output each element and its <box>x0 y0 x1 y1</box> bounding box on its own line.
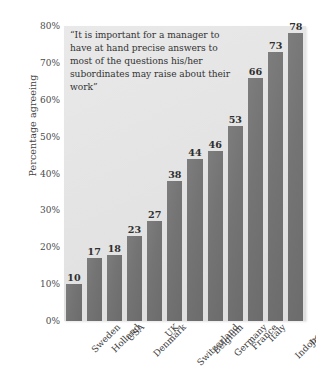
y-axis-tick-30: 30% <box>22 205 60 215</box>
bar <box>228 126 243 321</box>
bar <box>288 33 303 321</box>
bar-value-label: 46 <box>202 139 228 150</box>
y-axis-tick-20: 20% <box>22 242 60 252</box>
bar-value-label: 78 <box>283 21 309 32</box>
bar-slot: 44 <box>185 26 205 321</box>
bar <box>147 221 162 321</box>
y-axis-tick-0: 0% <box>22 316 60 326</box>
bar-slot: 23 <box>125 26 145 321</box>
bar <box>167 181 182 321</box>
bar <box>107 255 122 321</box>
bar-value-label: 38 <box>162 169 188 180</box>
bar-value-label: 23 <box>122 224 148 235</box>
bar <box>208 151 223 321</box>
bar-value-label: 66 <box>243 66 269 77</box>
bar-value-label: 27 <box>142 209 168 220</box>
bar-slot: 18 <box>104 26 124 321</box>
bar-value-label: 18 <box>101 243 127 254</box>
y-axis-tick-40: 40% <box>22 169 60 179</box>
bar <box>248 78 263 321</box>
bar <box>127 236 142 321</box>
bar-value-label: 10 <box>61 272 87 283</box>
bar <box>66 284 81 321</box>
y-axis-tick-80: 80% <box>22 21 60 31</box>
bar-value-label: 73 <box>263 40 289 51</box>
bar <box>268 52 283 321</box>
bar <box>87 258 102 321</box>
bar <box>187 159 202 321</box>
y-axis-tick-60: 60% <box>22 95 60 105</box>
bar-value-label: 53 <box>222 114 248 125</box>
x-axis-category-labels: SwedenHollandUSADenmarkUKSwitzerlandBelg… <box>64 322 306 386</box>
bar-slot: 10 <box>64 26 84 321</box>
plot-area: “It is important for a manager to have a… <box>64 26 306 321</box>
bar-chart-figure: Percentage agreeing 80%70%60%50%40%30%20… <box>0 0 316 387</box>
x-axis-label-usa: USA <box>125 322 146 343</box>
bar-slot: 17 <box>84 26 104 321</box>
y-axis-tick-labels: 80%70%60%50%40%30%20%10%0% <box>22 0 60 387</box>
y-axis-tick-50: 50% <box>22 132 60 142</box>
bar-slot: 38 <box>165 26 185 321</box>
bar-slot: 73 <box>266 26 286 321</box>
bar-slot: 66 <box>246 26 266 321</box>
bar-slot: 46 <box>205 26 225 321</box>
y-axis-tick-70: 70% <box>22 58 60 68</box>
bars-layer: 101718232738444653667378 <box>64 26 306 321</box>
y-axis-tick-10: 10% <box>22 279 60 289</box>
bar-slot: 78 <box>286 26 306 321</box>
